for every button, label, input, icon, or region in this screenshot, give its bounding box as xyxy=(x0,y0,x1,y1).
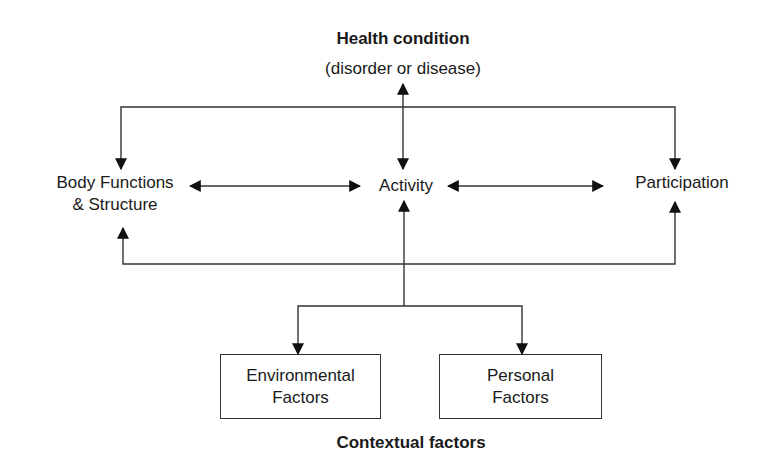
environmental-factors-line1: Environmental xyxy=(246,365,355,387)
personal-factors-line1: Personal xyxy=(487,365,554,387)
contextual-factors-caption: Contextual factors xyxy=(311,432,511,454)
activity-label: Activity xyxy=(356,175,456,197)
body-functions-node: Body Functions & Structure xyxy=(30,172,200,216)
bottom-bracket-line xyxy=(123,202,675,264)
health-condition-subtitle: (disorder or disease) xyxy=(293,58,513,80)
personal-factors-box: Personal Factors xyxy=(439,354,602,419)
health-condition-title: Health condition xyxy=(303,28,503,50)
participation-label: Participation xyxy=(617,172,747,194)
top-bracket-line xyxy=(121,107,675,169)
personal-factors-line2: Factors xyxy=(492,387,549,409)
environmental-factors-line2: Factors xyxy=(272,387,329,409)
context-branch-line xyxy=(298,306,522,354)
body-structure-label: & Structure xyxy=(30,194,200,216)
environmental-factors-box: Environmental Factors xyxy=(220,354,381,419)
body-functions-label: Body Functions xyxy=(30,172,200,194)
